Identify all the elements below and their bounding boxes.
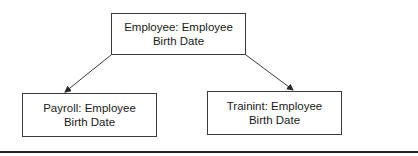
edge-employee-to-training [246,55,293,90]
node-training-line2: Birth Date [249,113,300,127]
node-payroll-line1: Payroll: Employee [43,101,136,115]
node-employee: Employee: Employee Birth Date [111,13,246,55]
node-employee-line1: Employee: Employee [124,20,233,34]
node-training-line1: Trainint: Employee [227,99,322,113]
node-payroll-line2: Birth Date [64,115,115,129]
node-training: Trainint: Employee Birth Date [207,91,342,135]
node-payroll: Payroll: Employee Birth Date [22,93,157,137]
edge-employee-to-payroll [65,55,111,92]
node-employee-line2: Birth Date [153,34,204,48]
bottom-divider [0,151,418,153]
